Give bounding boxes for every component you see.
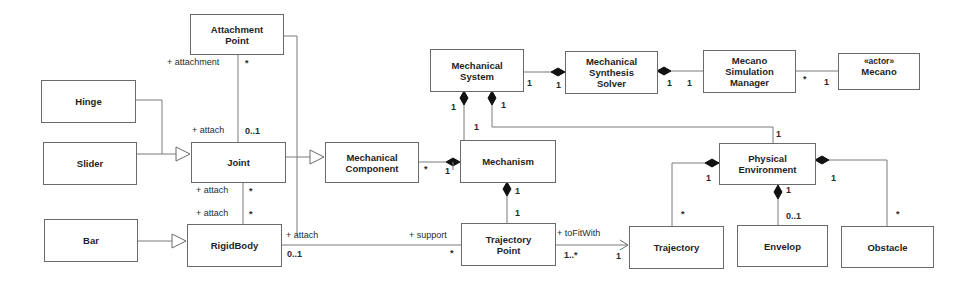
generalization-arrow-mechanicalcomponent bbox=[310, 150, 324, 164]
class-name-line: Attachment bbox=[211, 24, 263, 35]
multiplicity-label: * bbox=[249, 209, 253, 219]
composition-diamond-mechanism-tp bbox=[503, 182, 511, 196]
role-label: + toFitWith bbox=[557, 228, 600, 238]
multiplicity-label: 1 bbox=[667, 78, 672, 88]
class-name-line: Mecano bbox=[732, 55, 767, 66]
class-physical-environment[interactable]: Physical Environment bbox=[719, 143, 816, 185]
class-name: RigidBody bbox=[211, 240, 259, 251]
generalization-hinge-joint bbox=[135, 100, 162, 154]
class-name-line: Mechanical bbox=[586, 56, 637, 67]
composition-system-environment bbox=[492, 91, 773, 143]
role-label: + attachment bbox=[167, 57, 219, 67]
class-name: Bar bbox=[83, 235, 99, 246]
multiplicity-label: 1..* bbox=[564, 250, 578, 260]
class-mechanism[interactable]: Mechanism bbox=[460, 140, 556, 183]
class-name: Slider bbox=[77, 158, 103, 169]
multiplicity-label: * bbox=[245, 58, 249, 68]
class-name-line: Synthesis bbox=[589, 67, 634, 78]
class-hinge[interactable]: Hinge bbox=[41, 80, 136, 123]
multiplicity-label: 1 bbox=[556, 80, 561, 90]
multiplicity-label: 1 bbox=[527, 78, 532, 88]
assoc-attachmentpoint-rigidbody bbox=[283, 36, 297, 236]
class-envelop[interactable]: Envelop bbox=[737, 225, 828, 267]
multiplicity-label: * bbox=[681, 209, 685, 219]
multiplicity-label: 1 bbox=[776, 129, 781, 139]
class-rigid-body[interactable]: RigidBody bbox=[187, 224, 282, 267]
class-joint[interactable]: Joint bbox=[191, 142, 286, 183]
class-slider[interactable]: Slider bbox=[43, 142, 137, 185]
multiplicity-label: 1 bbox=[616, 251, 621, 261]
class-name-line: Solver bbox=[597, 78, 626, 89]
multiplicity-label: 1 bbox=[786, 185, 791, 195]
generalization-arrow-joint bbox=[176, 147, 190, 161]
multiplicity-label: 1 bbox=[687, 78, 692, 88]
multiplicity-label: 1 bbox=[501, 100, 506, 110]
multiplicity-label: 1 bbox=[831, 173, 836, 183]
multiplicity-label: 1 bbox=[445, 166, 450, 176]
class-mecano-actor[interactable]: «actor» Mecano bbox=[838, 53, 920, 90]
composition-diamond-env-obstacle bbox=[815, 156, 829, 164]
multiplicity-label: 0..1 bbox=[786, 211, 801, 221]
multiplicity-label: * bbox=[249, 186, 253, 196]
class-name-line: Component bbox=[346, 163, 399, 174]
role-label: + attach bbox=[196, 185, 228, 195]
composition-diamond-system-mechanism bbox=[460, 91, 468, 105]
multiplicity-label: 1 bbox=[515, 186, 520, 196]
composition-diamond-env-traj bbox=[705, 159, 719, 167]
class-name-line: Point bbox=[497, 245, 521, 256]
class-name-line: Environment bbox=[738, 164, 796, 175]
multiplicity-label: * bbox=[803, 74, 807, 84]
class-name: Mecano bbox=[861, 66, 896, 77]
class-name-line: Simulation bbox=[725, 66, 774, 77]
class-name: Mechanism bbox=[482, 156, 534, 167]
multiplicity-label: 1 bbox=[474, 122, 479, 132]
multiplicity-label: 1 bbox=[706, 173, 711, 183]
role-label: + attach bbox=[192, 125, 224, 135]
composition-diamond-solver bbox=[551, 68, 565, 76]
class-name: Hinge bbox=[75, 96, 101, 107]
class-mechanical-synthesis-solver[interactable]: Mechanical Synthesis Solver bbox=[565, 51, 658, 94]
class-name-line: Point bbox=[225, 35, 249, 46]
class-trajectory[interactable]: Trajectory bbox=[629, 226, 724, 269]
role-label: + support bbox=[409, 230, 447, 240]
class-mechanical-system[interactable]: Mechanical System bbox=[430, 49, 524, 92]
composition-environment-obstacle bbox=[815, 160, 887, 226]
class-name-line: Manager bbox=[730, 77, 769, 88]
role-label: + attach bbox=[196, 208, 228, 218]
class-name: Envelop bbox=[764, 241, 801, 252]
class-name-line: System bbox=[460, 71, 494, 82]
composition-diamond-system-environment bbox=[488, 91, 496, 105]
class-name-line: Physical bbox=[748, 153, 787, 164]
class-attachment-point[interactable]: Attachment Point bbox=[190, 14, 284, 55]
class-name: Joint bbox=[227, 157, 250, 168]
composition-environment-trajectory bbox=[672, 163, 719, 226]
multiplicity-label: 0..1 bbox=[245, 126, 260, 136]
multiplicity-label: 0..1 bbox=[287, 249, 302, 259]
class-trajectory-point[interactable]: Trajectory Point bbox=[461, 223, 556, 266]
class-mecano-simulation-manager[interactable]: Mecano Simulation Manager bbox=[703, 50, 796, 93]
composition-diamond-solver-manager bbox=[657, 67, 671, 75]
role-label: + attach bbox=[286, 230, 318, 240]
class-obstacle[interactable]: Obstacle bbox=[841, 226, 934, 268]
class-bar[interactable]: Bar bbox=[44, 219, 138, 262]
multiplicity-label: * bbox=[896, 209, 900, 219]
generalization-arrow-rigidbody bbox=[172, 234, 186, 248]
multiplicity-label: 1 bbox=[451, 102, 456, 112]
class-name-line: Mechanical bbox=[451, 60, 502, 71]
multiplicity-label: * bbox=[424, 164, 428, 174]
multiplicity-label: 1 bbox=[515, 208, 520, 218]
multiplicity-label: * bbox=[450, 248, 454, 258]
class-mechanical-component[interactable]: Mechanical Component bbox=[325, 142, 419, 183]
class-name: Obstacle bbox=[867, 242, 907, 253]
class-name-line: Trajectory bbox=[486, 234, 531, 245]
class-name: Trajectory bbox=[654, 242, 699, 253]
class-name-line: Mechanical bbox=[346, 152, 397, 163]
stereotype-label: «actor» bbox=[864, 56, 894, 66]
uml-class-diagram: Attachment Point Hinge Slider Joint Bar … bbox=[0, 0, 973, 281]
composition-diamond-env-envelop bbox=[774, 185, 782, 199]
multiplicity-label: 1 bbox=[824, 77, 829, 87]
